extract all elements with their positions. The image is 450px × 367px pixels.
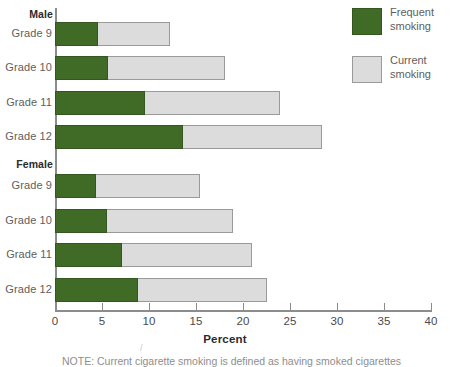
legend-swatch-current-icon [352, 56, 382, 83]
group-header-female: Female [16, 158, 53, 170]
category-label-male-grade-9: Grade 9 [12, 27, 52, 39]
group-header-male: Male [29, 8, 53, 20]
x-tick-label-15: 15 [190, 315, 203, 327]
legend-label-frequent: Frequent smoking [390, 6, 434, 33]
category-label-male-grade-10: Grade 10 [5, 61, 52, 73]
x-tick-label-20: 20 [237, 315, 250, 327]
x-tick-label-10: 10 [143, 315, 156, 327]
category-label-male-grade-12: Grade 12 [5, 130, 52, 142]
bar-segment-frequent-female-grade-12 [55, 278, 138, 302]
x-tick-mark-40 [431, 303, 432, 311]
bar-segment-frequent-male-grade-9 [55, 22, 98, 46]
bar-segment-frequent-male-grade-12 [55, 125, 183, 149]
bar-segment-frequent-female-grade-9 [55, 174, 96, 198]
x-tick-mark-25 [290, 303, 291, 311]
category-label-female-grade-9: Grade 9 [12, 179, 52, 191]
x-tick-mark-20 [243, 303, 244, 311]
chart-footnote: NOTE: Current cigarette smoking is defin… [62, 355, 450, 367]
bar-segment-frequent-female-grade-10 [55, 209, 107, 233]
bar-segment-frequent-female-grade-11 [55, 243, 122, 267]
x-tick-mark-10 [149, 303, 150, 311]
legend-item-current-smoking: Current smoking [352, 54, 450, 94]
category-label-female-grade-11: Grade 11 [6, 248, 52, 260]
x-tick-label-40: 40 [425, 315, 438, 327]
bar-segment-frequent-male-grade-10 [55, 56, 108, 80]
category-label-female-grade-10: Grade 10 [5, 214, 52, 226]
bar-segment-frequent-male-grade-11 [55, 91, 145, 115]
legend-item-frequent-smoking: Frequent smoking [352, 6, 450, 46]
category-label-male-grade-11: Grade 11 [6, 96, 52, 108]
category-label-female-grade-12: Grade 12 [5, 283, 52, 295]
x-tick-label-25: 25 [284, 315, 297, 327]
legend: Frequent smoking Current smoking [352, 6, 450, 94]
x-tick-label-30: 30 [331, 315, 344, 327]
x-tick-mark-0 [55, 303, 56, 311]
x-axis-title: Percent [0, 333, 450, 345]
x-tick-mark-35 [384, 303, 385, 311]
x-tick-mark-30 [337, 303, 338, 311]
x-tick-mark-5 [102, 303, 103, 311]
x-tick-label-35: 35 [378, 315, 391, 327]
x-tick-label-0: 0 [52, 315, 58, 327]
legend-swatch-frequent-icon [352, 8, 382, 35]
x-tick-mark-15 [196, 303, 197, 311]
stray-ink-mark: / [140, 343, 143, 353]
legend-label-current: Current smoking [390, 54, 431, 81]
x-tick-label-5: 5 [99, 315, 105, 327]
